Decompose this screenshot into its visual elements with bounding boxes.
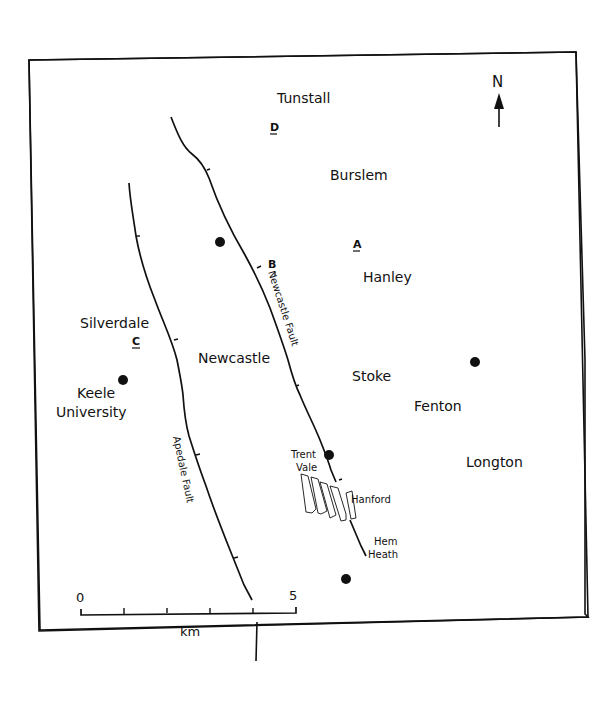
label-hanford: Hanford bbox=[351, 494, 391, 505]
site-a: A bbox=[353, 238, 362, 251]
town-stoke: Stoke bbox=[352, 368, 391, 384]
scale-unit-label: km bbox=[180, 624, 200, 639]
north-arrow-icon bbox=[494, 93, 504, 127]
label-trent: Trent bbox=[290, 449, 316, 460]
newcastle-fault-label: Newcastle Fault bbox=[266, 269, 301, 347]
location-dot bbox=[341, 574, 351, 584]
map-border bbox=[29, 52, 588, 631]
location-dot bbox=[215, 237, 225, 247]
town-hanley: Hanley bbox=[363, 269, 412, 285]
location-dot bbox=[470, 357, 480, 367]
town-keele: Keele bbox=[77, 385, 115, 401]
town-fenton: Fenton bbox=[414, 398, 462, 414]
location-dot bbox=[118, 375, 128, 385]
label-vale: Vale bbox=[296, 462, 317, 473]
svg-text:A: A bbox=[353, 238, 362, 251]
site-d: D bbox=[270, 121, 279, 134]
scale-end-label: 5 bbox=[289, 588, 297, 603]
site-c: C bbox=[132, 335, 140, 348]
mine-workings bbox=[301, 474, 356, 521]
town-newcastle: Newcastle bbox=[198, 350, 270, 366]
svg-text:C: C bbox=[132, 335, 140, 348]
label-hem: Hem bbox=[374, 536, 397, 547]
apedale-fault-line bbox=[129, 183, 252, 600]
north-label: N bbox=[492, 73, 503, 91]
svg-text:B: B bbox=[268, 258, 276, 271]
map-frame bbox=[29, 52, 588, 630]
geology-map: N Newcastle Fault Apedale Fault Tunstall bbox=[0, 0, 613, 701]
town-longton: Longton bbox=[466, 454, 523, 470]
scale-start-label: 0 bbox=[76, 590, 84, 605]
town-burslem: Burslem bbox=[330, 167, 388, 183]
town-tunstall: Tunstall bbox=[276, 90, 330, 106]
town-university: University bbox=[56, 404, 127, 420]
label-heath: Heath bbox=[368, 549, 398, 560]
town-silverdale: Silverdale bbox=[80, 315, 149, 331]
svg-text:D: D bbox=[270, 121, 279, 134]
location-dot bbox=[324, 450, 334, 460]
